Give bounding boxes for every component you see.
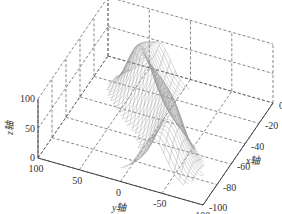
z-tick-label: 50 xyxy=(25,123,35,134)
x-tick-label: -40 xyxy=(251,141,264,152)
x-tick-label: -100 xyxy=(209,202,227,213)
tick-labels: 100500-50-1000-20-40-60-80-100050100 xyxy=(20,93,282,214)
z-tick-label: 100 xyxy=(20,93,35,104)
z-tick-label: 0 xyxy=(30,152,35,163)
y-tick-label: -100 xyxy=(192,210,210,214)
y-axis-label: y轴 xyxy=(111,202,127,213)
mesh-surface xyxy=(107,42,204,185)
y-tick-label: 100 xyxy=(29,163,44,174)
3d-mesh-chart: 100500-50-1000-20-40-60-80-100050100 y轴 … xyxy=(0,0,282,214)
y-tick-label: 0 xyxy=(116,187,121,198)
axes-box xyxy=(38,99,273,205)
z-axis-label: z轴 xyxy=(4,120,15,136)
x-tick-label: -80 xyxy=(223,182,236,193)
y-tick-label: -50 xyxy=(153,198,166,209)
y-tick-label: 50 xyxy=(72,175,82,186)
x-tick-label: 0 xyxy=(279,100,282,111)
x-axis-label: x轴 xyxy=(245,155,261,166)
x-tick-label: -20 xyxy=(265,120,278,131)
